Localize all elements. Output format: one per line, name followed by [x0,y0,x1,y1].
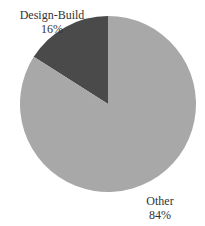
slice-label-design-build: Design-Build 16% [12,8,92,36]
pie-slices [20,16,196,192]
slice-label-percent: 84% [140,208,180,222]
slice-label-name: Design-Build [12,8,92,22]
slice-label-name: Other [140,194,180,208]
slice-label-other: Other 84% [140,194,180,222]
slice-label-percent: 16% [12,22,92,36]
